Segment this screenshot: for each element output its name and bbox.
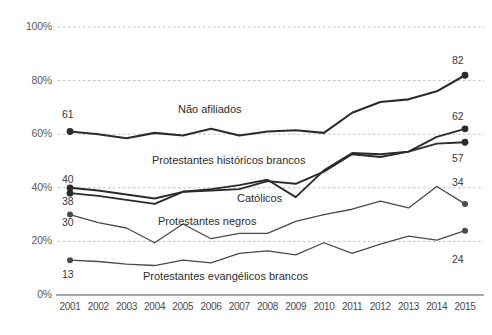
series-line-0 (70, 75, 465, 138)
x-tick-label: 2009 (280, 301, 312, 312)
value-label: 57 (452, 152, 464, 164)
y-tick-label: 60% (0, 127, 52, 139)
line-chart: 0%20%40%60%80%100% 200120022003200420052… (0, 0, 492, 335)
value-label: 40 (62, 173, 74, 185)
y-tick-label: 40% (0, 181, 52, 193)
y-tick-label: 100% (0, 20, 52, 32)
value-label: 82 (452, 54, 464, 66)
value-label: 61 (62, 108, 74, 120)
series-endpoint-markers (67, 72, 469, 263)
x-tick-label: 2014 (421, 301, 453, 312)
value-label: 13 (62, 268, 74, 280)
gridlines (58, 27, 484, 241)
x-tick-label: 2001 (54, 301, 86, 312)
endpoint-marker (462, 201, 468, 207)
x-tick-label: 2015 (449, 301, 481, 312)
x-tick-label: 2002 (82, 301, 114, 312)
series-annotation: Protestantes históricos brancos (152, 154, 305, 166)
series-line-4 (70, 231, 465, 266)
value-label: 24 (452, 253, 464, 265)
endpoint-marker (67, 257, 73, 263)
endpoint-marker (462, 139, 469, 146)
x-tick-label: 2006 (195, 301, 227, 312)
value-label: 34 (452, 176, 464, 188)
series-annotation: Não afiliados (178, 103, 242, 115)
x-tick-label: 2011 (336, 301, 368, 312)
x-tick-label: 2007 (223, 301, 255, 312)
y-tick-label: 80% (0, 74, 52, 86)
value-label: 30 (62, 216, 74, 228)
value-label: 38 (62, 195, 74, 207)
value-label: 62 (452, 110, 464, 122)
series-annotation: Católicos (237, 192, 282, 204)
x-tick-label: 2003 (110, 301, 142, 312)
chart-plot-area (0, 0, 492, 335)
endpoint-marker (67, 128, 74, 135)
y-tick-label: 20% (0, 234, 52, 246)
endpoint-marker (462, 72, 469, 79)
x-tick-label: 2013 (393, 301, 425, 312)
x-tick-label: 2005 (167, 301, 199, 312)
endpoint-marker (462, 228, 468, 234)
series-annotation: Protestantes evangélicos brancos (143, 270, 308, 282)
series-lines (70, 75, 465, 265)
x-tick-label: 2008 (252, 301, 284, 312)
x-tick-label: 2012 (364, 301, 396, 312)
y-tick-label: 0% (0, 288, 52, 300)
series-annotation: Protestantes negros (158, 215, 256, 227)
x-tick-label: 2004 (139, 301, 171, 312)
x-tick-label: 2010 (308, 301, 340, 312)
endpoint-marker (462, 125, 469, 132)
